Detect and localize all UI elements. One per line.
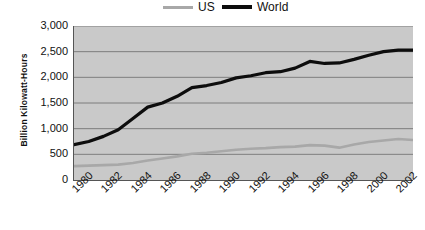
chart-container: USWorld Billion Kilowatt-Hours 05001,000… xyxy=(0,0,425,230)
plot-area xyxy=(73,26,413,181)
series-canvas xyxy=(74,26,413,180)
y-tick-label: 2,000 xyxy=(40,71,68,82)
legend-item-world[interactable]: World xyxy=(222,1,289,13)
legend-swatch-us xyxy=(163,6,193,9)
y-tick-label: 2,500 xyxy=(40,46,68,57)
y-axis-tick-labels: 05001,0001,5002,0002,5003,000 xyxy=(22,20,68,186)
legend-item-us[interactable]: US xyxy=(163,1,215,13)
legend-label: World xyxy=(257,1,289,13)
x-axis-tick-labels: 1980198219841986198819901992199419961998… xyxy=(73,181,418,229)
legend-swatch-world xyxy=(222,5,252,9)
y-tick-label: 3,000 xyxy=(40,20,68,31)
legend-label: US xyxy=(198,1,215,13)
y-tick-label: 1,500 xyxy=(40,97,68,108)
y-tick-label: 1,000 xyxy=(40,123,68,134)
series-line-world[interactable] xyxy=(74,50,413,144)
y-tick-label: 500 xyxy=(50,148,68,159)
y-tick-label: 0 xyxy=(62,174,68,185)
chart-legend: USWorld xyxy=(0,1,425,21)
series-line-us[interactable] xyxy=(74,139,413,166)
